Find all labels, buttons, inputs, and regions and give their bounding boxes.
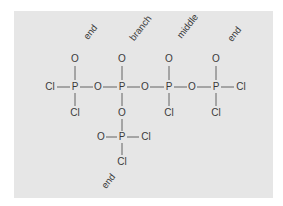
atom-p5_cl_bottom: Cl [117, 156, 126, 167]
phosphorus-oxychloride-chain-diagram: ClPOClOPOOOPOClOPOClClPOClCl endbranchmi… [0, 0, 283, 206]
atom-p1: P [72, 81, 79, 92]
atom-cl_right: Cl [236, 81, 245, 92]
atom-p5_o_left: O [97, 131, 105, 142]
atom-p3: P [166, 81, 173, 92]
label-end-0: end [81, 22, 99, 41]
atom-p4_o_top: O [212, 53, 220, 64]
atom-p4: P [213, 81, 220, 92]
atom-p3_cl_bottom: Cl [164, 107, 173, 118]
atom-p2_o_bottom: O [118, 107, 126, 118]
atom-o_bridge1: O [94, 81, 102, 92]
atom-cl_left: Cl [45, 81, 54, 92]
atom-p1_cl_bottom: Cl [70, 107, 79, 118]
atom-p1_o_top: O [71, 53, 79, 64]
label-branch-1: branch [127, 13, 154, 43]
label-end-3: end [225, 24, 243, 43]
atom-o_bridge2: O [141, 81, 149, 92]
atom-p3_o_top: O [165, 53, 173, 64]
atom-p5_cl_right: Cl [141, 131, 150, 142]
atom-p2: P [119, 81, 126, 92]
atom-p2_o_top: O [118, 53, 126, 64]
label-middle-2: middle [174, 11, 200, 40]
labels-group: endbranchmiddleendend [81, 11, 243, 190]
label-end-4: end [99, 171, 117, 190]
atom-p5: P [119, 131, 126, 142]
atom-p4_cl_bottom: Cl [211, 107, 220, 118]
atom-o_bridge3: O [188, 81, 196, 92]
